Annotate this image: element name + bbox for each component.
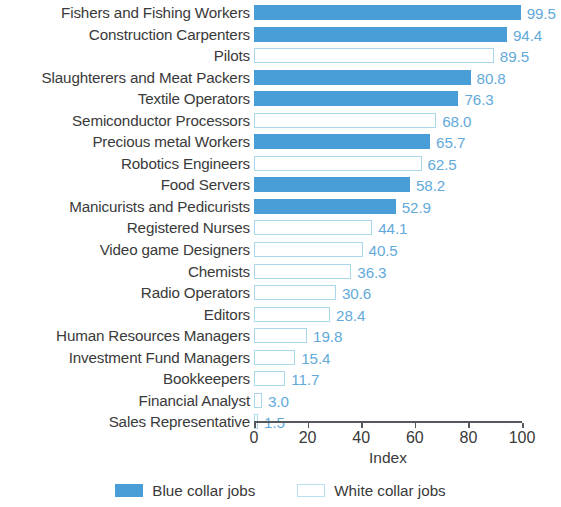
chart-row: Semiconductor Processors68.0 bbox=[0, 111, 561, 133]
chart-row: Video game Designers40.5 bbox=[0, 240, 561, 262]
chart-row: Slaughterers and Meat Packers80.8 bbox=[0, 68, 561, 90]
bar bbox=[254, 156, 422, 171]
category-label: Investment Fund Managers bbox=[69, 348, 250, 370]
chart-row: Editors28.4 bbox=[0, 305, 561, 327]
category-label: Food Servers bbox=[161, 175, 250, 197]
bar bbox=[254, 350, 295, 365]
chart-plot-area: Fishers and Fishing Workers99.5Construct… bbox=[0, 3, 561, 434]
bar bbox=[254, 5, 521, 20]
bar-value-label: 65.7 bbox=[436, 133, 465, 152]
chart-row: Precious metal Workers65.7 bbox=[0, 132, 561, 154]
bar-value-label: 30.6 bbox=[342, 284, 371, 303]
chart-row: Registered Nurses44.1 bbox=[0, 218, 561, 240]
bar-value-label: 80.8 bbox=[477, 69, 506, 88]
bar-value-label: 40.5 bbox=[369, 241, 398, 260]
category-label: Semiconductor Processors bbox=[72, 111, 250, 133]
legend-item-white[interactable]: White collar jobs bbox=[297, 482, 445, 499]
x-axis-tick-label: 0 bbox=[250, 429, 259, 447]
chart-row: Investment Fund Managers15.4 bbox=[0, 348, 561, 370]
chart-row: Pilots89.5 bbox=[0, 46, 561, 68]
bar bbox=[254, 220, 372, 235]
x-axis-tick-label: 80 bbox=[459, 429, 477, 447]
bar bbox=[254, 242, 363, 257]
bar-value-label: 28.4 bbox=[336, 306, 365, 325]
category-label: Financial Analyst bbox=[139, 391, 250, 413]
bar-value-label: 99.5 bbox=[527, 4, 556, 23]
legend-item-blue[interactable]: Blue collar jobs bbox=[115, 482, 255, 499]
bar-value-label: 3.0 bbox=[268, 392, 289, 411]
legend-label: Blue collar jobs bbox=[152, 482, 255, 499]
chart-row: Food Servers58.2 bbox=[0, 175, 561, 197]
bar-value-label: 62.5 bbox=[428, 155, 457, 174]
bar bbox=[254, 393, 262, 408]
x-axis-tick-label: 60 bbox=[406, 429, 424, 447]
bar bbox=[254, 27, 507, 42]
legend-swatch-icon bbox=[115, 484, 143, 497]
chart-row: Construction Carpenters94.4 bbox=[0, 25, 561, 47]
x-axis: 020406080100 bbox=[254, 421, 522, 422]
category-label: Fishers and Fishing Workers bbox=[61, 3, 250, 25]
chart-legend: Blue collar jobsWhite collar jobs bbox=[0, 482, 561, 499]
category-label: Radio Operators bbox=[141, 283, 250, 305]
category-label: Sales Representative bbox=[109, 412, 250, 434]
x-axis-tick bbox=[415, 423, 417, 428]
bar-value-label: 44.1 bbox=[378, 219, 407, 238]
category-label: Precious metal Workers bbox=[92, 132, 250, 154]
category-label: Video game Designers bbox=[100, 240, 250, 262]
bar bbox=[254, 285, 336, 300]
bar-value-label: 68.0 bbox=[442, 112, 471, 131]
x-axis-tick bbox=[522, 423, 524, 428]
category-label: Registered Nurses bbox=[127, 218, 250, 240]
bar-value-label: 58.2 bbox=[416, 176, 445, 195]
category-label: Construction Carpenters bbox=[89, 25, 250, 47]
bar bbox=[254, 264, 351, 279]
chart-row: Human Resources Managers19.8 bbox=[0, 326, 561, 348]
category-label: Slaughterers and Meat Packers bbox=[42, 68, 250, 90]
bar-value-label: 11.7 bbox=[291, 370, 319, 389]
bar bbox=[254, 70, 471, 85]
chart-row: Financial Analyst3.0 bbox=[0, 391, 561, 413]
category-label: Editors bbox=[204, 305, 250, 327]
bar-value-label: 36.3 bbox=[357, 263, 386, 282]
x-axis-line bbox=[254, 421, 522, 423]
chart-row: Robotics Engineers62.5 bbox=[0, 154, 561, 176]
x-axis-tick bbox=[361, 423, 363, 428]
bar bbox=[254, 199, 396, 214]
x-axis-tick bbox=[254, 423, 256, 428]
bar-value-label: 15.4 bbox=[301, 349, 330, 368]
x-axis-title: Index bbox=[254, 449, 522, 467]
category-label: Robotics Engineers bbox=[121, 154, 250, 176]
bar bbox=[254, 48, 494, 63]
legend-label: White collar jobs bbox=[334, 482, 445, 499]
category-label: Pilots bbox=[214, 46, 250, 68]
category-label: Textile Operators bbox=[138, 89, 250, 111]
bar-value-label: 76.3 bbox=[464, 90, 493, 109]
bar bbox=[254, 134, 430, 149]
bar-value-label: 19.8 bbox=[313, 327, 342, 346]
bar bbox=[254, 371, 285, 386]
chart-row: Bookkeepers11.7 bbox=[0, 369, 561, 391]
category-label: Manicurists and Pedicurists bbox=[69, 197, 250, 219]
x-axis-tick-label: 100 bbox=[509, 429, 536, 447]
x-axis-tick bbox=[308, 423, 310, 428]
x-axis-tick-label: 20 bbox=[299, 429, 317, 447]
bar-value-label: 94.4 bbox=[513, 26, 542, 45]
chart-row: Chemists36.3 bbox=[0, 262, 561, 284]
legend-swatch-icon bbox=[297, 484, 325, 497]
x-axis-tick-label: 40 bbox=[352, 429, 370, 447]
bar bbox=[254, 91, 458, 106]
bar-value-label: 89.5 bbox=[500, 47, 529, 66]
chart-row: Textile Operators76.3 bbox=[0, 89, 561, 111]
chart-row: Radio Operators30.6 bbox=[0, 283, 561, 305]
bar bbox=[254, 177, 410, 192]
bar-value-label: 52.9 bbox=[402, 198, 431, 217]
bar bbox=[254, 307, 330, 322]
category-label: Bookkeepers bbox=[163, 369, 250, 391]
category-label: Human Resources Managers bbox=[56, 326, 250, 348]
chart-row: Fishers and Fishing Workers99.5 bbox=[0, 3, 561, 25]
bar bbox=[254, 113, 436, 128]
bar-chart: Fishers and Fishing Workers99.5Construct… bbox=[0, 0, 561, 507]
chart-row: Manicurists and Pedicurists52.9 bbox=[0, 197, 561, 219]
bar-value-label: 1.5 bbox=[264, 413, 285, 432]
category-label: Chemists bbox=[188, 262, 250, 284]
